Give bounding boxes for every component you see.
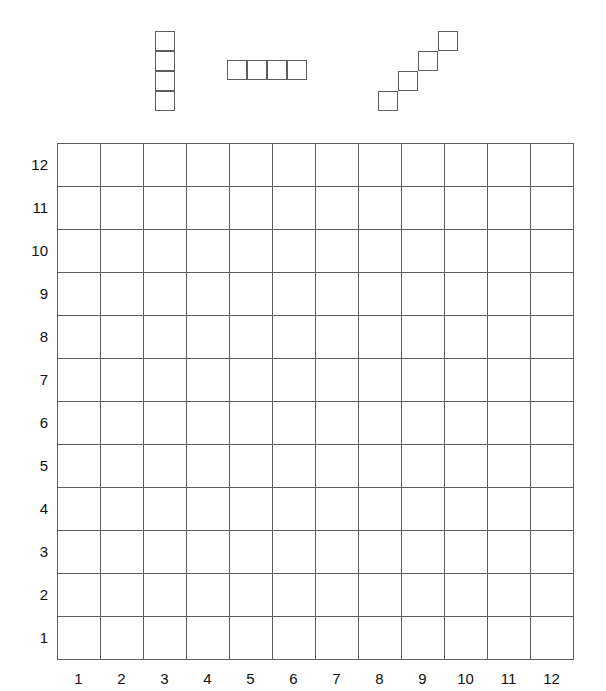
grid-cell[interactable] xyxy=(402,531,445,574)
grid-cell[interactable] xyxy=(101,574,144,617)
grid-cell[interactable] xyxy=(445,187,488,230)
grid-cell[interactable] xyxy=(187,230,230,273)
grid-cell[interactable] xyxy=(144,488,187,531)
grid-cell[interactable] xyxy=(445,359,488,402)
grid-cell[interactable] xyxy=(531,445,574,488)
grid-cell[interactable] xyxy=(359,359,402,402)
grid-cell[interactable] xyxy=(187,316,230,359)
grid-cell[interactable] xyxy=(531,402,574,445)
grid-cell[interactable] xyxy=(144,316,187,359)
grid-cell[interactable] xyxy=(445,273,488,316)
grid-cell[interactable] xyxy=(316,359,359,402)
grid-cell[interactable] xyxy=(488,402,531,445)
grid-cell[interactable] xyxy=(402,187,445,230)
grid-cell[interactable] xyxy=(273,316,316,359)
grid-cell[interactable] xyxy=(101,230,144,273)
grid-cell[interactable] xyxy=(58,359,101,402)
grid-cell[interactable] xyxy=(187,531,230,574)
grid-cell[interactable] xyxy=(58,574,101,617)
grid-cell[interactable] xyxy=(144,445,187,488)
grid-cell[interactable] xyxy=(230,574,273,617)
grid-cell[interactable] xyxy=(144,402,187,445)
grid-cell[interactable] xyxy=(58,617,101,660)
grid-cell[interactable] xyxy=(230,488,273,531)
grid-cell[interactable] xyxy=(230,402,273,445)
grid-cell[interactable] xyxy=(488,187,531,230)
grid-cell[interactable] xyxy=(273,402,316,445)
grid-cell[interactable] xyxy=(58,488,101,531)
grid-cell[interactable] xyxy=(230,359,273,402)
grid-cell[interactable] xyxy=(402,273,445,316)
grid-cell[interactable] xyxy=(273,617,316,660)
grid-cell[interactable] xyxy=(531,359,574,402)
grid-cell[interactable] xyxy=(187,144,230,187)
grid-cell[interactable] xyxy=(101,316,144,359)
grid-cell[interactable] xyxy=(58,187,101,230)
grid-cell[interactable] xyxy=(316,617,359,660)
grid-cell[interactable] xyxy=(402,144,445,187)
grid-cell[interactable] xyxy=(230,445,273,488)
grid-cell[interactable] xyxy=(316,316,359,359)
grid-cell[interactable] xyxy=(187,488,230,531)
grid-cell[interactable] xyxy=(187,445,230,488)
grid-cell[interactable] xyxy=(187,402,230,445)
grid-cell[interactable] xyxy=(359,574,402,617)
grid-cell[interactable] xyxy=(230,316,273,359)
grid-cell[interactable] xyxy=(488,488,531,531)
grid-cell[interactable] xyxy=(359,488,402,531)
grid-cell[interactable] xyxy=(488,617,531,660)
grid-cell[interactable] xyxy=(58,531,101,574)
grid-cell[interactable] xyxy=(531,144,574,187)
grid-cell[interactable] xyxy=(402,574,445,617)
grid-cell[interactable] xyxy=(230,531,273,574)
grid-cell[interactable] xyxy=(187,617,230,660)
grid-cell[interactable] xyxy=(230,144,273,187)
grid-cell[interactable] xyxy=(359,445,402,488)
grid-cell[interactable] xyxy=(101,273,144,316)
grid-cell[interactable] xyxy=(531,574,574,617)
grid-cell[interactable] xyxy=(230,187,273,230)
grid-cell[interactable] xyxy=(531,316,574,359)
grid-cell[interactable] xyxy=(316,230,359,273)
grid-cell[interactable] xyxy=(144,187,187,230)
grid-cell[interactable] xyxy=(488,531,531,574)
grid-cell[interactable] xyxy=(445,316,488,359)
grid-cell[interactable] xyxy=(58,273,101,316)
grid-cell[interactable] xyxy=(144,359,187,402)
grid-cell[interactable] xyxy=(144,531,187,574)
grid-cell[interactable] xyxy=(445,230,488,273)
grid-cell[interactable] xyxy=(316,445,359,488)
grid-cell[interactable] xyxy=(144,273,187,316)
grid-cell[interactable] xyxy=(101,531,144,574)
grid-cell[interactable] xyxy=(273,144,316,187)
grid-cell[interactable] xyxy=(359,144,402,187)
grid-cell[interactable] xyxy=(445,574,488,617)
grid-cell[interactable] xyxy=(445,617,488,660)
grid-cell[interactable] xyxy=(316,402,359,445)
grid-cell[interactable] xyxy=(445,144,488,187)
grid-cell[interactable] xyxy=(531,230,574,273)
grid-cell[interactable] xyxy=(273,531,316,574)
grid-cell[interactable] xyxy=(316,574,359,617)
grid-cell[interactable] xyxy=(488,230,531,273)
grid-cell[interactable] xyxy=(144,574,187,617)
grid-cell[interactable] xyxy=(445,531,488,574)
grid-cell[interactable] xyxy=(101,402,144,445)
grid-cell[interactable] xyxy=(316,531,359,574)
grid-cell[interactable] xyxy=(402,488,445,531)
grid-cell[interactable] xyxy=(445,402,488,445)
grid-cell[interactable] xyxy=(58,316,101,359)
grid-cell[interactable] xyxy=(58,230,101,273)
grid-cell[interactable] xyxy=(144,144,187,187)
grid-cell[interactable] xyxy=(273,273,316,316)
grid-cell[interactable] xyxy=(316,273,359,316)
grid-cell[interactable] xyxy=(273,230,316,273)
grid-cell[interactable] xyxy=(230,273,273,316)
grid-cell[interactable] xyxy=(359,273,402,316)
grid-cell[interactable] xyxy=(230,230,273,273)
grid-cell[interactable] xyxy=(316,187,359,230)
grid-cell[interactable] xyxy=(58,402,101,445)
grid-cell[interactable] xyxy=(359,402,402,445)
grid-cell[interactable] xyxy=(359,531,402,574)
grid-cell[interactable] xyxy=(402,402,445,445)
